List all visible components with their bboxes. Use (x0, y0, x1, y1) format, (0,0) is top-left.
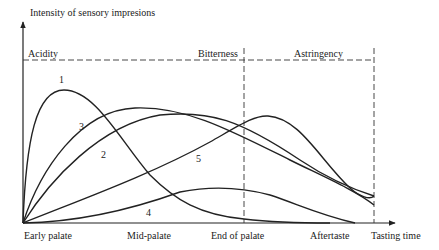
curve-2 (23, 114, 374, 223)
x-axis-label: Tasting time (371, 231, 421, 241)
x-tick-end-of-palate: End of palate (211, 231, 264, 241)
curve-label-5: 5 (196, 154, 201, 164)
x-tick-mid-palate: Mid-palate (127, 231, 171, 241)
x-tick-aftertaste: Aftertaste (310, 231, 349, 241)
curve-label-4: 4 (146, 208, 151, 218)
curve-5 (23, 116, 374, 223)
curve-3 (23, 108, 374, 223)
zone-label-bitterness: Bitterness (198, 49, 238, 59)
curve-label-2: 2 (101, 150, 106, 160)
curve-label-1: 1 (59, 75, 64, 85)
y-axis-label: Intensity of sensory impresions (30, 8, 155, 18)
x-tick-early-palate: Early palate (24, 231, 72, 241)
zone-label-acidity: Acidity (28, 49, 58, 59)
sensory-chart (0, 0, 439, 250)
curve-label-3: 3 (79, 122, 84, 132)
zone-label-astringency: Astringency (294, 49, 343, 59)
curve-4 (23, 188, 355, 223)
